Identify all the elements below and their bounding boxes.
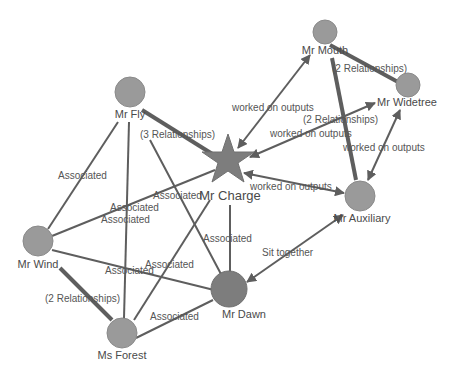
node-mr-auxiliary[interactable]: Mr Auxiliary — [334, 181, 391, 224]
edge-label-charge-dawn: Associated — [203, 233, 252, 244]
node-circle-icon[interactable] — [211, 271, 247, 307]
node-label: Mr Mouth — [302, 44, 348, 56]
network-diagram: (3 Relationships) Associated Associated … — [0, 0, 454, 377]
node-label: Mr Dawn — [222, 308, 266, 320]
edge-label-fly-charge: (3 Relationships) — [140, 129, 215, 140]
node-circle-icon[interactable] — [345, 181, 375, 211]
node-circle-icon[interactable] — [23, 226, 53, 256]
edge-label-auxiliary-widetree: worked on outputs — [342, 142, 425, 153]
star-icon[interactable] — [202, 134, 254, 182]
node-circle-icon[interactable] — [107, 318, 137, 348]
edge-label-wind-charge: Associated — [101, 214, 150, 225]
edge-label-forest-charge: Associated — [145, 259, 194, 270]
edge-label-mouth-widetree: (2 Relationships) — [332, 63, 407, 74]
node-circle-icon[interactable] — [115, 77, 145, 107]
node-label: Mr Fly — [115, 108, 146, 120]
node-label: Ms Forest — [98, 349, 147, 361]
node-label: Mr Wind — [18, 258, 59, 270]
edge-label-charge-mouth: worked on outputs — [231, 102, 314, 113]
node-mr-fly[interactable]: Mr Fly — [115, 77, 146, 120]
node-mr-wind[interactable]: Mr Wind — [18, 226, 59, 270]
node-label: Mr Charge — [199, 188, 260, 203]
node-mr-mouth[interactable]: Mr Mouth — [302, 20, 348, 56]
node-label: Mr Widetree — [377, 96, 437, 108]
edge-label-fly-forest: Associated — [110, 202, 159, 213]
edge-label-charge-auxiliary: worked on outputs — [249, 181, 332, 192]
edge-label-forest-dawn: Associated — [150, 311, 199, 322]
node-mr-widetree[interactable]: Mr Widetree — [377, 73, 437, 108]
edge-label-charge-widetree: worked on outputs — [269, 128, 352, 139]
edge-label-fly-dawn: Associated — [153, 190, 202, 201]
node-mr-dawn[interactable]: Mr Dawn — [211, 271, 266, 320]
edge-label-fly-wind: Associated — [58, 170, 107, 181]
node-mr-charge[interactable]: Mr Charge — [199, 134, 260, 203]
node-label: Mr Auxiliary — [334, 212, 391, 224]
edge-label-dawn-auxiliary: Sit together — [262, 247, 314, 258]
node-ms-forest[interactable]: Ms Forest — [98, 318, 147, 361]
node-circle-icon[interactable] — [396, 73, 420, 97]
node-circle-icon[interactable] — [313, 20, 337, 44]
edge-label-wind-forest: (2 Relationships) — [45, 293, 120, 304]
edge-label-mouth-auxiliary: (2 Relationships) — [303, 114, 378, 125]
edge-fly-dawn[interactable] — [150, 140, 222, 276]
